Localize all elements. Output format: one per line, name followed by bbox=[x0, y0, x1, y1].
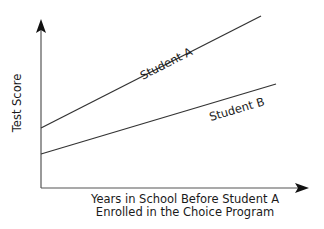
y-axis-label: Test Score bbox=[10, 74, 24, 134]
series-line-student-b bbox=[41, 84, 276, 154]
series-label-student-a: Student A bbox=[138, 44, 195, 82]
x-axis-label-line-2: Enrolled in the Choice Program bbox=[40, 206, 324, 219]
x-axis-label: Years in School Before Student A Enrolle… bbox=[40, 193, 324, 218]
x-axis-label-line-1: Years in School Before Student A bbox=[40, 193, 324, 206]
series-label-student-b: Student B bbox=[208, 94, 267, 124]
